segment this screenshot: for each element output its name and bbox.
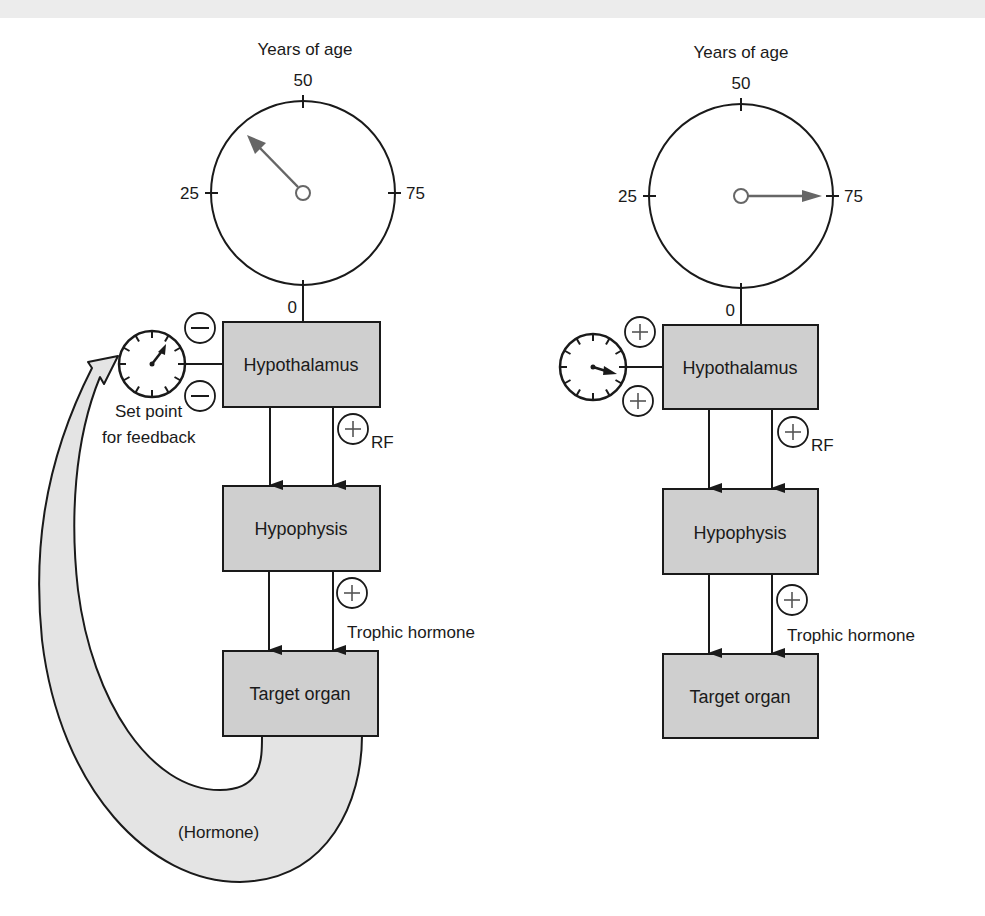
trophic-plus-sign-right	[777, 585, 807, 615]
hypothalamus-label: Hypothalamus	[243, 355, 358, 375]
hypophysis-label-right: Hypophysis	[693, 523, 786, 543]
hormone-label: (Hormone)	[178, 823, 259, 842]
age-tick-0-right: 0	[726, 301, 735, 320]
scan-bleed-band	[0, 0, 985, 18]
age-tick-0: 0	[288, 298, 297, 317]
age-tick-50: 50	[294, 71, 313, 90]
age-tick-25: 25	[180, 184, 199, 203]
diagram-old: Years of age 50 25 75 0	[560, 43, 915, 738]
diagram-young: (Hormone) Years of age 50 25 75 0	[39, 40, 475, 882]
setpoint-label-line2: for feedback	[102, 428, 196, 447]
target-organ-label: Target organ	[249, 684, 350, 704]
target-organ-label-right: Target organ	[689, 687, 790, 707]
age-tick-75: 75	[406, 184, 425, 203]
trophic-hormone-label-right: Trophic hormone	[787, 626, 915, 645]
hypophysis-label: Hypophysis	[254, 519, 347, 539]
hypothalamus-label-right: Hypothalamus	[682, 358, 797, 378]
plus-sign-top-right	[625, 317, 655, 347]
trophic-hormone-label: Trophic hormone	[347, 623, 475, 642]
age-tick-50-right: 50	[732, 74, 751, 93]
setpoint-dial	[119, 331, 185, 397]
rf-label-right: RF	[811, 436, 834, 455]
trophic-plus-sign	[337, 578, 367, 608]
setpoint-label-line1: Set point	[115, 402, 182, 421]
rf-label: RF	[371, 433, 394, 452]
rf-plus-sign-right	[778, 417, 808, 447]
minus-sign-bottom	[185, 381, 215, 411]
aging-feedback-diagram: (Hormone) Years of age 50 25 75 0	[0, 0, 985, 916]
plus-sign-bottom-right	[623, 386, 653, 416]
age-tick-25-right: 25	[618, 187, 637, 206]
age-dial-title-right: Years of age	[694, 43, 789, 62]
age-tick-75-right: 75	[844, 187, 863, 206]
hormone-feedback-arrow	[39, 356, 362, 882]
age-dial-title: Years of age	[258, 40, 353, 59]
rf-plus-sign	[338, 414, 368, 444]
setpoint-dial-right	[560, 334, 626, 400]
minus-sign-top	[185, 313, 215, 343]
